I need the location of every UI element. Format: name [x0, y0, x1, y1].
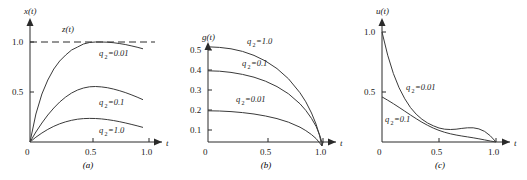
- panel-a-reference-label: z(t): [61, 24, 74, 34]
- curve-b-q2-0p1: [208, 71, 323, 142]
- panel-a-caption: (a): [68, 160, 108, 170]
- svg-text:=0.1: =0.1: [108, 97, 124, 107]
- panel-b: g(t) t 0.1 0.2 0.3 0.4 0.5 0 0.5 1.0 q 2…: [178, 0, 353, 180]
- panel-c-xtick-0p5: 0.5: [431, 147, 443, 157]
- svg-text:=1.0: =1.0: [108, 125, 125, 135]
- panel-a-ytick-0p5: 0.5: [12, 87, 24, 97]
- panel-b-ytick-0p4: 0.4: [190, 65, 202, 75]
- svg-text:q: q: [99, 97, 104, 107]
- panel-c-axes: [379, 18, 511, 146]
- panel-c-svg: u(t) t 0.5 1.0 0 0.5 1.0 q 2 =0.01 q 2 =…: [352, 0, 527, 180]
- svg-text:q: q: [406, 82, 411, 92]
- panel-b-curve-label-bot: q 2 =0.01: [236, 94, 266, 106]
- svg-text:=0.01: =0.01: [245, 94, 266, 104]
- svg-text:q: q: [385, 114, 390, 124]
- svg-text:=0.1: =0.1: [394, 114, 410, 124]
- curve-a-q2-0p1: [30, 87, 143, 143]
- panel-b-svg: g(t) t 0.1 0.2 0.3 0.4 0.5 0 0.5 1.0 q 2…: [178, 0, 353, 180]
- svg-text:=0.1: =0.1: [251, 58, 267, 68]
- figure-three-panel-plots: x(t) t 0.5 1.0 0 0.5 1.0 z(t) q 2 =0.01 …: [0, 0, 527, 180]
- svg-text:q: q: [99, 48, 104, 58]
- panel-a-ytick-1p0: 1.0: [12, 37, 24, 47]
- curve-b-q2-0p01: [208, 111, 323, 146]
- panel-b-ytick-0p3: 0.3: [190, 85, 202, 95]
- panel-c-xtick-1p0: 1.0: [488, 147, 500, 157]
- svg-text:q: q: [247, 36, 252, 46]
- curve-c-q2-0p01: [382, 32, 496, 142]
- svg-text:q: q: [99, 125, 104, 135]
- panel-a-ylabel: x(t): [23, 6, 37, 16]
- panel-b-caption: (b): [246, 160, 286, 170]
- panel-a-curve-label-mid: q 2 =0.1: [99, 97, 124, 109]
- panel-a: x(t) t 0.5 1.0 0 0.5 1.0 z(t) q 2 =0.01 …: [0, 0, 180, 180]
- panel-c-curve-label-bot: q 2 =0.1: [385, 114, 410, 126]
- panel-b-axes: [205, 42, 337, 146]
- panel-b-ytick-0p2: 0.2: [190, 105, 201, 115]
- panel-c-ylabel: u(t): [376, 6, 389, 16]
- svg-text:=0.01: =0.01: [415, 82, 436, 92]
- panel-b-curve-label-mid: q 2 =0.1: [242, 58, 267, 70]
- panel-c-xlabel: t: [514, 138, 517, 148]
- panel-a-xtick-0p5: 0.5: [85, 147, 97, 157]
- panel-a-xtick-0: 0: [25, 147, 30, 157]
- curve-a-q2-1p0: [30, 118, 143, 142]
- svg-text:=1.0: =1.0: [256, 36, 273, 46]
- panel-b-curve-label-top: q 2 =1.0: [247, 36, 273, 48]
- panel-a-svg: x(t) t 0.5 1.0 0 0.5 1.0 z(t) q 2 =0.01 …: [0, 0, 180, 180]
- panel-b-ytick-0p5: 0.5: [190, 45, 202, 55]
- panel-b-xtick-0: 0: [203, 147, 208, 157]
- panel-c-curve-label-top: q 2 =0.01: [406, 82, 436, 94]
- panel-a-curve-label-top: q 2 =0.01: [99, 48, 129, 60]
- panel-c-xtick-0: 0: [377, 147, 382, 157]
- panel-b-ylabel: g(t): [202, 32, 215, 42]
- panel-b-xlabel: t: [340, 138, 343, 148]
- panel-a-curve-label-bot: q 2 =1.0: [99, 125, 125, 137]
- panel-b-xtick-1p0: 1.0: [315, 147, 327, 157]
- panel-a-xtick-1p0: 1.0: [141, 147, 153, 157]
- svg-text:=0.01: =0.01: [108, 48, 129, 58]
- svg-text:q: q: [236, 94, 241, 104]
- panel-c-ytick-0p5: 0.5: [364, 87, 376, 97]
- panel-b-ytick-0p1: 0.1: [190, 125, 201, 135]
- panel-c-caption: (c): [420, 160, 460, 170]
- panel-a-xlabel: t: [166, 138, 169, 148]
- panel-c: u(t) t 0.5 1.0 0 0.5 1.0 q 2 =0.01 q 2 =…: [352, 0, 527, 180]
- panel-c-ytick-1p0: 1.0: [364, 27, 376, 37]
- panel-b-xtick-0p5: 0.5: [260, 147, 272, 157]
- svg-text:q: q: [242, 58, 247, 68]
